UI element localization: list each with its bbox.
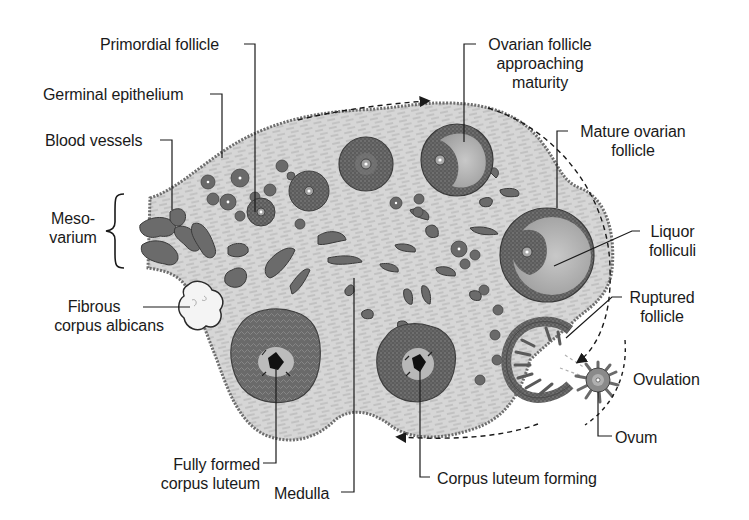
corpus-luteum-forming	[377, 324, 456, 402]
label-corpus-luteum-forming: Corpus luteum forming	[437, 469, 597, 488]
label-blood-vessels: Blood vessels	[45, 131, 142, 150]
primordial-follicle	[247, 198, 275, 226]
ovary-diagram: Primordial follicle Germinal epithelium …	[0, 0, 749, 520]
label-ovum: Ovum	[615, 428, 657, 447]
label-approaching-line3: maturity	[478, 73, 602, 92]
label-ruptured-follicle: Ruptured follicle	[622, 288, 702, 326]
ovum	[576, 362, 618, 402]
label-mature-line2: follicle	[572, 141, 694, 160]
label-liquor-line2: folliculi	[640, 241, 705, 260]
mesovarium-brace	[106, 194, 124, 268]
label-mesovarium: Meso- varium	[44, 209, 102, 247]
label-ruptured-line2: follicle	[622, 307, 702, 326]
label-fully-formed-line2: corpus luteum	[150, 474, 260, 493]
label-fibrous-line2: corpus albicans	[44, 316, 174, 335]
label-approaching-line2: approaching	[478, 54, 602, 73]
label-fully-formed-corpus-luteum: Fully formed corpus luteum	[150, 455, 260, 493]
label-mesovarium-line1: Meso-	[44, 209, 102, 228]
label-mature-ovarian-follicle: Mature ovarian follicle	[572, 122, 694, 160]
follicle-approaching-maturity	[421, 124, 493, 196]
label-ruptured-line1: Ruptured	[622, 288, 702, 307]
label-fully-formed-line1: Fully formed	[150, 455, 260, 474]
label-medulla: Medulla	[274, 484, 329, 503]
label-fibrous-line1: Fibrous	[44, 297, 174, 316]
label-liquor-line1: Liquor	[640, 222, 705, 241]
label-approaching-line1: Ovarian follicle	[478, 35, 602, 54]
label-ovulation: Ovulation	[633, 370, 700, 389]
growing-follicle	[289, 171, 329, 211]
label-mature-line1: Mature ovarian	[572, 122, 694, 141]
label-germinal-epithelium: Germinal epithelium	[43, 85, 183, 104]
label-liquor-folliculi: Liquor folliculi	[640, 222, 705, 260]
label-follicle-approaching-maturity: Ovarian follicle approaching maturity	[478, 35, 602, 92]
label-mesovarium-line2: varium	[44, 228, 102, 247]
label-primordial-follicle: Primordial follicle	[100, 35, 219, 54]
secondary-follicle	[339, 137, 393, 191]
label-fibrous-corpus-albicans: Fibrous corpus albicans	[44, 297, 174, 335]
